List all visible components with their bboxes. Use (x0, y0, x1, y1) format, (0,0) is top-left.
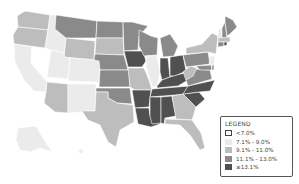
legend-swatch (225, 156, 232, 162)
legend: LEGEND <7.0% 7.1% - 9.0% 9.1% - 11.0% 11… (220, 116, 293, 177)
state-wy (64, 38, 95, 60)
legend-label: ≥13.1% (236, 164, 258, 170)
legend-item-lt7: <7.0% (225, 129, 288, 138)
state-de (212, 65, 214, 70)
state-vt (218, 28, 222, 39)
state-pa (183, 52, 210, 67)
state-in (160, 58, 170, 80)
state-ar (132, 90, 151, 108)
legend-label: 9.1% - 11.0% (236, 147, 274, 153)
legend-title: LEGEND (225, 120, 288, 127)
state-nm (68, 84, 96, 113)
legend-item-7-9: 7.1% - 9.0% (225, 138, 288, 147)
legend-item-gte13: ≥13.1% (225, 163, 288, 172)
legend-item-9-11: 9.1% - 11.0% (225, 146, 288, 155)
state-az (44, 82, 68, 113)
state-mi (160, 34, 178, 57)
legend-item-11-13: 11.1% - 13.0% (225, 155, 288, 164)
state-fl (165, 119, 205, 150)
legend-swatch (225, 147, 232, 153)
state-hi (78, 149, 84, 154)
legend-label: <7.0% (236, 130, 255, 136)
state-co (68, 58, 100, 82)
state-ri (224, 42, 227, 46)
state-sd (95, 38, 124, 55)
state-ak (16, 126, 52, 152)
legend-swatch (225, 139, 232, 145)
state-ks (99, 70, 130, 87)
state-me (225, 16, 237, 36)
state-ms (150, 97, 161, 124)
state-nd (96, 21, 123, 38)
legend-swatch (225, 164, 232, 170)
state-wi (139, 30, 158, 56)
state-ct (218, 42, 224, 47)
legend-swatch (225, 130, 232, 136)
legend-label: 7.1% - 9.0% (236, 139, 270, 145)
state-ma (218, 37, 230, 42)
state-ny (186, 33, 218, 54)
legend-label: 11.1% - 13.0% (236, 156, 277, 162)
